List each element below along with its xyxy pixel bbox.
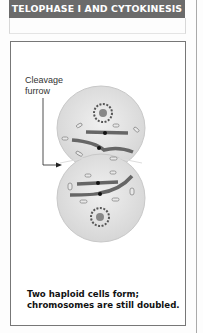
lower-daughter-cell	[57, 154, 145, 242]
label-line-1: Cleavage	[25, 75, 63, 86]
leader-line	[43, 98, 58, 165]
arrow-icon	[56, 163, 62, 168]
telophase-cells-illustration	[0, 0, 203, 333]
caption-line-1: Two haploid cells form;	[27, 289, 180, 300]
label-line-2: furrow	[25, 86, 63, 97]
diagram-caption: Two haploid cells form; chromosomes are …	[27, 289, 180, 311]
caption-line-2: chromosomes are still doubled.	[27, 300, 180, 311]
cleavage-furrow-label: Cleavage furrow	[25, 75, 63, 97]
